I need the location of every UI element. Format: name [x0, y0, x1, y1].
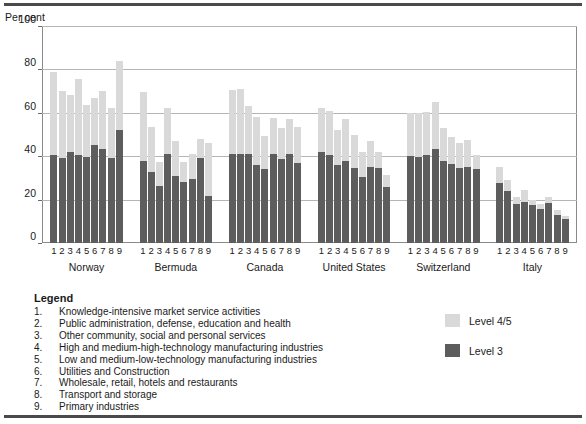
series-color-swatch — [445, 344, 460, 357]
x-tick-label-5: 5 — [172, 245, 180, 256]
bar-italy-7[interactable] — [545, 197, 552, 243]
y-tick-label-100: 100 — [0, 13, 36, 25]
bar-segment-level3 — [286, 154, 293, 243]
x-tick-label-6: 6 — [269, 245, 277, 256]
x-tick-label-8: 8 — [196, 245, 204, 256]
bar-italy-9[interactable] — [562, 216, 569, 243]
bar-switzerland-7[interactable] — [456, 143, 463, 243]
bar-segment-level45 — [318, 108, 325, 151]
x-tick-label-3: 3 — [512, 245, 520, 256]
bar-italy-3[interactable] — [513, 197, 520, 243]
legend-item: 4.High and medium-high-technology manufa… — [34, 342, 323, 354]
bar-bermuda-8[interactable] — [197, 139, 204, 243]
bar-canada-8[interactable] — [286, 119, 293, 243]
bar-norway-1[interactable] — [50, 72, 57, 243]
bar-norway-3[interactable] — [67, 95, 74, 243]
bar-canada-5[interactable] — [261, 136, 268, 243]
bar-segment-level45 — [270, 118, 277, 154]
bar-switzerland-1[interactable] — [407, 113, 414, 243]
bar-segment-level3 — [50, 155, 57, 243]
country-label: Bermuda — [154, 261, 197, 273]
bar-segment-level45 — [278, 128, 285, 159]
bar-norway-4[interactable] — [75, 79, 82, 243]
bar-canada-7[interactable] — [278, 128, 285, 243]
bar-bermuda-9[interactable] — [205, 143, 212, 243]
bar-united-states-2[interactable] — [326, 111, 333, 243]
bar-segment-level3 — [504, 191, 511, 243]
x-tick-label-5: 5 — [439, 245, 447, 256]
bar-switzerland-8[interactable] — [464, 140, 471, 243]
bar-norway-6[interactable] — [91, 98, 98, 243]
y-tick-mark-60 — [38, 113, 42, 114]
bar-bermuda-1[interactable] — [140, 92, 147, 243]
bar-united-states-9[interactable] — [383, 175, 390, 243]
x-tick-label-1: 1 — [139, 245, 147, 256]
bar-segment-level3 — [83, 157, 90, 243]
x-tick-label-4: 4 — [253, 245, 261, 256]
bar-italy-4[interactable] — [521, 190, 528, 243]
x-category-numbers: 123456789 — [406, 245, 480, 256]
bar-canada-3[interactable] — [245, 106, 252, 243]
bar-italy-1[interactable] — [496, 167, 503, 243]
series-key-list: Level 4/5Level 3 — [445, 314, 512, 374]
bar-bermuda-7[interactable] — [189, 154, 196, 243]
bar-segment-level45 — [326, 111, 333, 155]
bar-bermuda-5[interactable] — [172, 141, 179, 243]
bar-switzerland-3[interactable] — [423, 112, 430, 243]
bar-switzerland-5[interactable] — [440, 128, 447, 243]
legend-item-label: Primary industries — [59, 401, 139, 413]
bar-segment-level3 — [326, 155, 333, 243]
x-category-numbers: 123456789 — [139, 245, 213, 256]
bar-segment-level45 — [367, 141, 374, 167]
bar-segment-level45 — [116, 61, 123, 130]
bar-norway-2[interactable] — [59, 91, 66, 243]
bar-switzerland-6[interactable] — [448, 137, 455, 243]
bar-united-states-1[interactable] — [318, 108, 325, 243]
bar-segment-level45 — [99, 91, 106, 149]
bar-segment-level3 — [342, 161, 349, 243]
legend-item-number: 5. — [34, 354, 59, 366]
bar-segment-level45 — [359, 152, 366, 177]
x-tick-label-9: 9 — [204, 245, 212, 256]
bar-italy-6[interactable] — [537, 204, 544, 243]
bar-switzerland-4[interactable] — [432, 102, 439, 243]
bar-norway-7[interactable] — [99, 91, 106, 243]
legend-item-number: 9. — [34, 401, 59, 413]
x-tick-label-4: 4 — [74, 245, 82, 256]
bar-canada-1[interactable] — [229, 90, 236, 243]
bar-united-states-7[interactable] — [367, 141, 374, 243]
bar-italy-8[interactable] — [554, 210, 561, 243]
bar-canada-4[interactable] — [253, 117, 260, 243]
bar-bermuda-3[interactable] — [156, 162, 163, 243]
bar-group-bermuda — [131, 26, 220, 243]
bar-united-states-3[interactable] — [334, 130, 341, 243]
bar-switzerland-2[interactable] — [415, 113, 422, 243]
legend-item-number: 4. — [34, 342, 59, 354]
bar-united-states-8[interactable] — [375, 152, 382, 243]
bar-norway-5[interactable] — [83, 105, 90, 243]
x-tick-label-7: 7 — [366, 245, 374, 256]
bar-united-states-4[interactable] — [342, 119, 349, 243]
bar-canada-6[interactable] — [270, 118, 277, 243]
x-tick-label-6: 6 — [180, 245, 188, 256]
bar-bermuda-2[interactable] — [148, 127, 155, 243]
x-group-united-states: 123456789United States — [310, 245, 399, 285]
bar-norway-9[interactable] — [116, 61, 123, 243]
bar-segment-level45 — [440, 128, 447, 161]
legend-item-number: 3. — [34, 330, 59, 342]
bar-italy-2[interactable] — [504, 180, 511, 243]
bar-norway-8[interactable] — [108, 108, 115, 243]
bar-switzerland-9[interactable] — [473, 155, 480, 243]
bar-united-states-5[interactable] — [351, 135, 358, 243]
x-tick-label-9: 9 — [294, 245, 302, 256]
bar-united-states-6[interactable] — [359, 152, 366, 243]
bar-bermuda-6[interactable] — [180, 162, 187, 243]
bar-bermuda-4[interactable] — [164, 108, 171, 243]
bar-italy-5[interactable] — [529, 200, 536, 243]
bar-canada-2[interactable] — [237, 89, 244, 243]
country-label: Italy — [523, 261, 542, 273]
x-tick-label-3: 3 — [334, 245, 342, 256]
x-category-numbers: 123456789 — [496, 245, 570, 256]
bar-canada-9[interactable] — [294, 127, 301, 243]
x-group-canada: 123456789Canada — [220, 245, 309, 285]
